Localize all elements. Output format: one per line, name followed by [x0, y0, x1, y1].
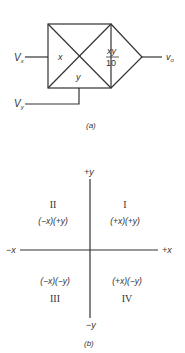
box-y-label: y — [75, 72, 81, 82]
vy-input-wire — [25, 88, 79, 104]
quadrant-iv-signs: (+x)(−y) — [112, 276, 142, 286]
vy-label: Vy — [14, 98, 25, 110]
quadrant-iii-signs: (−x)(−y) — [40, 276, 70, 286]
quadrant-iii-numeral: III — [50, 293, 60, 304]
quadrant-i-numeral: I — [123, 199, 126, 210]
output-triangle — [111, 24, 142, 88]
quadrant-ii-numeral: II — [50, 199, 57, 210]
quadrant-ii-signs: (−x)(+y) — [38, 216, 68, 226]
quadrant-i-signs: (+x)(+y) — [110, 216, 140, 226]
fraction-denominator: 10 — [106, 58, 116, 68]
neg-x-label: −x — [6, 245, 16, 255]
neg-y-label: −y — [86, 320, 96, 330]
pos-y-label: +y — [84, 167, 94, 177]
box-x-label: x — [57, 52, 63, 62]
vx-label: Vx — [14, 52, 25, 64]
caption-a: (a) — [86, 121, 96, 130]
multiplier-diagram: Vx Vy x y xy 10 vo (a) +y −y +x −x II (−… — [0, 0, 185, 353]
fraction-numerator: xy — [106, 46, 117, 56]
multiplier-block — [25, 24, 162, 104]
caption-b: (b) — [84, 339, 94, 348]
output-label: vo — [166, 52, 175, 63]
pos-x-label: +x — [162, 245, 172, 255]
quadrant-iv-numeral: IV — [122, 293, 133, 304]
